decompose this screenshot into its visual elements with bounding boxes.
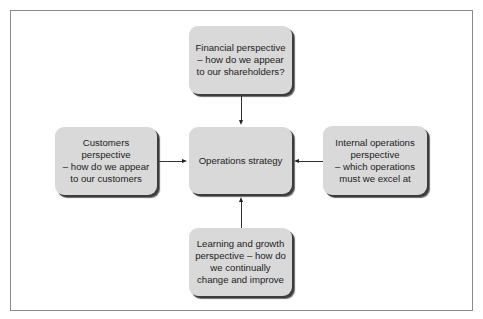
internal-operations-perspective-box: Internal operations perspective – which … <box>323 126 427 195</box>
customers-perspective-label: Customers perspective – how do we appear… <box>63 137 149 185</box>
internal-operations-perspective-label: Internal operations perspective – which … <box>335 137 415 185</box>
customers-to-center-line <box>159 161 183 162</box>
operations-strategy-label: Operations strategy <box>199 155 283 167</box>
customers-perspective-box: Customers perspective – how do we appear… <box>55 127 157 195</box>
learning-growth-perspective-box: Learning and growth perspective – how do… <box>189 228 292 296</box>
customers-to-center-arrowhead-icon <box>182 159 187 163</box>
learning-growth-perspective-label: Learning and growth perspective – how do… <box>195 238 286 286</box>
financial-to-center-line <box>241 96 242 121</box>
internal-to-center-arrowhead-icon <box>294 159 299 163</box>
learning-to-center-arrowhead-icon <box>239 197 243 202</box>
internal-to-center-line <box>299 161 323 162</box>
financial-to-center-arrowhead-icon <box>239 120 243 125</box>
financial-perspective-box: Financial perspective – how do we appear… <box>189 26 292 94</box>
financial-perspective-label: Financial perspective – how do we appear… <box>195 42 285 78</box>
operations-strategy-box: Operations strategy <box>189 127 292 194</box>
learning-to-center-line <box>241 202 242 228</box>
